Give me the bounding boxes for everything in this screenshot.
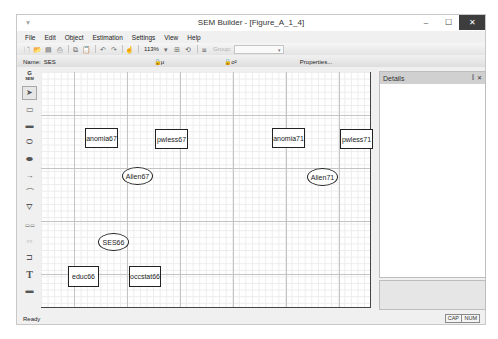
text-tool-button[interactable]: T xyxy=(22,267,37,281)
toolbar-separator xyxy=(197,45,198,53)
menu-edit[interactable]: Edit xyxy=(44,34,55,41)
menu-settings[interactable]: Settings xyxy=(132,34,156,41)
paste-icon[interactable]: 📋 xyxy=(82,45,91,54)
toolbar-separator xyxy=(138,45,139,53)
zoom-dropdown-icon[interactable]: ▾ xyxy=(162,45,171,54)
gsem-toggle-bottom: SEM xyxy=(25,76,34,81)
print-icon[interactable]: ⎙ xyxy=(55,45,64,54)
fullscreen-icon[interactable]: ⟲ xyxy=(184,45,193,54)
diagram-canvas[interactable]: anomia67pwless67Alien67anomia71pwless71A… xyxy=(41,72,371,308)
thick-rectangle-icon: ▬ xyxy=(26,121,34,130)
status-text: Ready xyxy=(23,316,40,322)
menu-view[interactable]: View xyxy=(164,34,178,41)
mu-label: μ xyxy=(161,59,164,65)
latent-variable-alien71[interactable]: Alien71 xyxy=(307,168,338,186)
observed-variable-pwless67[interactable]: pwless67 xyxy=(155,129,188,149)
latent-variable-tool-button[interactable]: ⬭ xyxy=(22,135,37,149)
status-bar: Ready CAP NUM xyxy=(17,312,485,325)
observed-regression-icon: ▭▭ xyxy=(25,222,35,228)
name-label: Name: xyxy=(23,59,41,65)
thick-oval-icon: ⬬ xyxy=(26,154,33,164)
pointer-icon[interactable]: ☝ xyxy=(125,45,134,54)
generalized-response-tool-button[interactable]: ▬ xyxy=(22,119,37,133)
details-close-icon[interactable]: ✕ xyxy=(477,74,482,81)
latent-variable-alien67[interactable]: Alien67 xyxy=(122,167,153,185)
details-info-area xyxy=(379,280,486,310)
observed-variable-pwless71[interactable]: pwless71 xyxy=(340,129,373,149)
num-lock-indicator: NUM xyxy=(461,314,480,323)
sigma-label: σ² xyxy=(231,59,237,65)
regression-component-tool-button[interactable]: ⊐ xyxy=(22,251,37,265)
properties-button[interactable]: Properties... xyxy=(300,59,332,65)
menu-file[interactable]: File xyxy=(25,34,35,41)
title-bar: ♆ SEM Builder - [Figure_A_1_4] – ☐ ✕ xyxy=(17,15,485,31)
toolbar-separator xyxy=(95,45,96,53)
group-select[interactable]: ▾ xyxy=(234,45,284,54)
measurement-component-tool-button[interactable]: ⛛ xyxy=(22,201,37,215)
copy-icon[interactable]: ⧉ xyxy=(71,45,80,54)
details-panel: Details ⫿ ✕ xyxy=(379,71,486,278)
close-button[interactable]: ✕ xyxy=(459,15,485,30)
open-icon[interactable]: 📂 xyxy=(33,45,42,54)
chevron-down-icon: ▾ xyxy=(278,46,281,54)
pin-icon[interactable]: ⫿ xyxy=(472,74,474,81)
observed-variable-educ66[interactable]: educ66 xyxy=(68,266,99,287)
measurement-component-icon: ⛛ xyxy=(26,203,33,213)
zoom-level[interactable]: 113% xyxy=(144,46,159,52)
details-header: Details ⫿ ✕ xyxy=(380,72,485,84)
sem-builder-window: ♆ SEM Builder - [Figure_A_1_4] – ☐ ✕ Fil… xyxy=(16,14,486,325)
save-icon[interactable]: ▤ xyxy=(44,45,53,54)
undo-icon[interactable]: ↶ xyxy=(98,45,107,54)
gsem-toggle-button[interactable]: G SEM xyxy=(22,69,37,83)
latent-variable-ses66[interactable]: SES66 xyxy=(98,233,129,251)
name-field[interactable]: SES xyxy=(44,59,124,65)
path-tool-button[interactable]: → xyxy=(22,168,37,182)
latent-regression-tool-button[interactable]: ○○ xyxy=(22,234,37,248)
multilevel-latent-tool-button[interactable]: ⬬ xyxy=(22,152,37,166)
new-icon[interactable]: 🗋 xyxy=(22,45,31,54)
tool-palette: G SEM ➤ ▭ ▬ ⬭ ⬬ → ⌒ ⛛ ▭▭ ○○ ⊐ T ▬ xyxy=(21,69,39,304)
menu-bar: File Edit Object Estimation Settings Vie… xyxy=(17,32,485,43)
fit-icon[interactable]: ⊞ xyxy=(173,45,182,54)
area-tool-button[interactable]: ▬ xyxy=(22,284,37,298)
covariance-tool-button[interactable]: ⌒ xyxy=(22,185,37,199)
observed-variable-tool-button[interactable]: ▭ xyxy=(22,102,37,116)
text-icon: T xyxy=(26,269,33,280)
observed-variable-anomia67[interactable]: anomia67 xyxy=(85,128,118,148)
group-icon[interactable]: ⧈ xyxy=(200,45,209,54)
toolbar-separator xyxy=(122,45,123,53)
observed-variable-occstat66[interactable]: occstat66 xyxy=(129,266,161,287)
properties-bar: Name: SES 🔒μ 🔒σ² Properties... xyxy=(17,56,485,67)
curved-arrow-icon: ⌒ xyxy=(26,186,34,197)
arrow-right-icon: → xyxy=(26,171,34,180)
latent-regression-icon: ○○ xyxy=(26,238,32,244)
maximize-button[interactable]: ☐ xyxy=(437,15,459,30)
toolbar: 🗋 📂 ▤ ⎙ ⧉ 📋 ↶ ↷ ☝ 113% ▾ ⊞ ⟲ ⧈ Group: ▾ xyxy=(17,43,485,55)
menu-help[interactable]: Help xyxy=(187,34,200,41)
observed-variable-anomia71[interactable]: anomia71 xyxy=(272,128,305,148)
regression-component-icon: ⊐ xyxy=(26,253,33,262)
minimize-button[interactable]: – xyxy=(415,15,437,30)
menu-object[interactable]: Object xyxy=(65,34,84,41)
area-icon: ▬ xyxy=(26,286,34,295)
rectangle-icon: ▭ xyxy=(26,105,34,114)
sigma-constraint[interactable]: 🔒σ² xyxy=(224,58,237,65)
caps-lock-indicator: CAP xyxy=(445,314,462,323)
pointer-arrow-icon: ➤ xyxy=(26,88,33,97)
mu-constraint[interactable]: 🔒μ xyxy=(154,58,164,65)
menu-estimation[interactable]: Estimation xyxy=(92,34,122,41)
oval-icon: ⬭ xyxy=(26,137,33,147)
toolbar-separator xyxy=(68,45,69,53)
select-tool-button[interactable]: ➤ xyxy=(22,86,37,100)
group-label: Group: xyxy=(213,46,231,52)
observed-regression-tool-button[interactable]: ▭▭ xyxy=(22,218,37,232)
redo-icon[interactable]: ↷ xyxy=(109,45,118,54)
details-title: Details xyxy=(383,75,404,82)
